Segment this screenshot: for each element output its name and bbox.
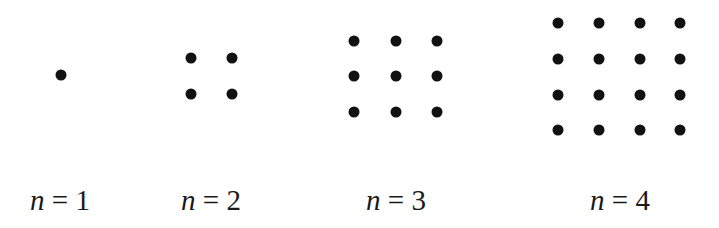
dot xyxy=(594,125,605,136)
dot xyxy=(391,36,402,47)
dot xyxy=(635,18,646,29)
dot xyxy=(391,71,402,82)
dot xyxy=(553,18,564,29)
dot xyxy=(675,90,686,101)
dot xyxy=(227,89,238,100)
dot xyxy=(594,90,605,101)
panel-label: n = 3 xyxy=(366,184,426,217)
dot xyxy=(675,54,686,65)
square-numbers-figure: n = 1 n = 2 n = 3 n = 4 xyxy=(0,0,719,228)
dot xyxy=(594,54,605,65)
dot xyxy=(227,53,238,64)
dot xyxy=(432,36,443,47)
panel-label: n = 4 xyxy=(590,184,650,217)
panel-label: n = 2 xyxy=(181,184,241,217)
dot xyxy=(56,70,67,81)
dot xyxy=(594,18,605,29)
dot xyxy=(635,90,646,101)
dot xyxy=(553,54,564,65)
dot xyxy=(186,89,197,100)
dot xyxy=(675,125,686,136)
dot xyxy=(349,107,360,118)
dot xyxy=(675,18,686,29)
dot xyxy=(432,71,443,82)
dot xyxy=(432,107,443,118)
dot xyxy=(553,90,564,101)
dot xyxy=(553,125,564,136)
dot xyxy=(186,53,197,64)
dot xyxy=(391,107,402,118)
dot xyxy=(349,36,360,47)
dot xyxy=(635,125,646,136)
panel-label: n = 1 xyxy=(30,184,90,217)
dot xyxy=(349,71,360,82)
dot xyxy=(635,54,646,65)
